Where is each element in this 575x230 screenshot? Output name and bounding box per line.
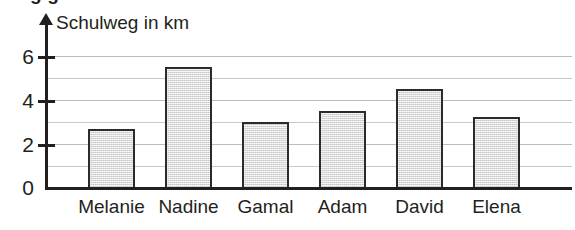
- gridline-5: [48, 78, 572, 79]
- x-label-elena: Elena: [455, 196, 538, 218]
- y-tick-label-0: 0: [4, 177, 34, 198]
- bar-nadine: [165, 67, 212, 190]
- gridline-6: [48, 56, 572, 57]
- y-tick-label-2: 2: [4, 134, 34, 155]
- gridline-4: [48, 100, 572, 101]
- bar-elena: [473, 117, 520, 191]
- bar-adam: [319, 111, 366, 190]
- bar-david: [396, 89, 443, 190]
- x-label-david: David: [378, 196, 461, 218]
- bar-melanie: [88, 129, 135, 190]
- x-label-nadine: Nadine: [147, 196, 230, 218]
- y-axis-line: [45, 22, 48, 190]
- x-label-gamal: Gamal: [224, 196, 307, 218]
- x-label-adam: Adam: [301, 196, 384, 218]
- y-tick-4: [38, 100, 55, 103]
- bar-gamal: [242, 122, 289, 190]
- bar-chart-figure: g g 0 2 4 6 Schulweg in km: [0, 0, 575, 230]
- x-label-melanie: Melanie: [70, 196, 153, 218]
- y-tick-label-6: 6: [4, 46, 34, 67]
- y-axis-title: Schulweg in km: [56, 13, 189, 32]
- plot-area: 0 2 4 6 Schulweg in km Melanie Nadine Ga…: [0, 0, 575, 230]
- y-tick-6: [38, 56, 55, 59]
- y-tick-label-4: 4: [4, 90, 34, 111]
- y-tick-2: [38, 144, 55, 147]
- x-axis-line: [45, 187, 572, 190]
